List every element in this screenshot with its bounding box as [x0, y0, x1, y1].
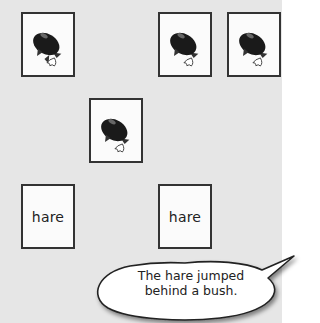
rocket-icon — [26, 23, 70, 67]
card-rocket-4[interactable] — [89, 98, 143, 163]
card-rocket-1[interactable] — [21, 12, 75, 77]
card-rocket-3[interactable] — [227, 12, 281, 77]
speech-bubble-text: The hare jumped behind a bush. — [112, 268, 270, 298]
card-rocket-2[interactable] — [158, 12, 212, 77]
speech-line-1: The hare jumped — [112, 268, 270, 283]
card-word-hare-2[interactable]: hare — [158, 184, 212, 249]
card-word-label: hare — [32, 209, 64, 225]
rocket-icon — [232, 23, 276, 67]
rocket-icon — [94, 109, 138, 153]
rocket-icon — [163, 23, 207, 67]
card-word-label: hare — [169, 209, 201, 225]
card-word-hare-1[interactable]: hare — [21, 184, 75, 249]
speech-line-2: behind a bush. — [112, 283, 270, 298]
